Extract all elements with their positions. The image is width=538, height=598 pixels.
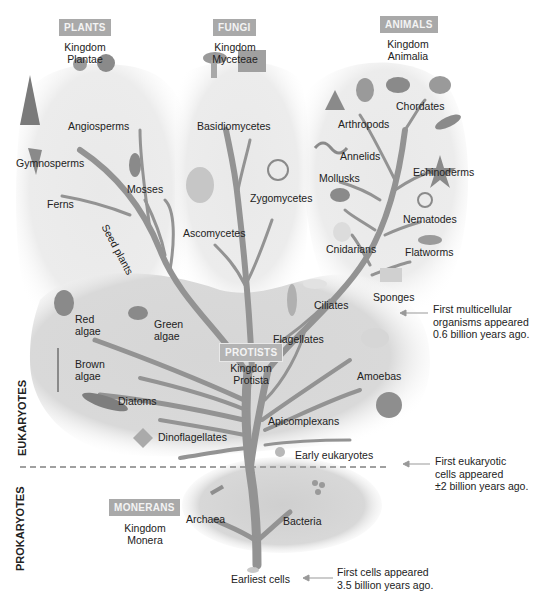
plants-kingdom-name: Kingdom Plantae (55, 41, 115, 65)
protists-kingdom-badge: PROTISTS (219, 343, 283, 362)
label-annelids: Annelids (340, 150, 380, 162)
label-earliest-cells: Earliest cells (231, 573, 290, 585)
fungi-kingdom-name: Kingdom Myceteae (204, 41, 266, 65)
label-gymnosperms: Gymnosperms (16, 157, 84, 169)
label-ascomycetes: Ascomycetes (183, 227, 245, 239)
eukaryotes-domain-label: EUKARYOTES (16, 376, 28, 456)
label-arthropods: Arthropods (338, 118, 389, 130)
monerans-kingdom-name: Kingdom Monera (115, 522, 175, 546)
sponge-icon (380, 268, 402, 282)
label-nematodes: Nematodes (403, 213, 457, 225)
prokaryotes-domain-label: PROKARYOTES (14, 491, 26, 571)
label-amoebas: Amoebas (357, 370, 401, 382)
label-mollusks: Mollusks (319, 172, 360, 184)
label-archaea: Archaea (186, 513, 225, 525)
tree-of-life-diagram: EUKARYOTES PROKARYOTES PLANTS Kingdom Pl… (0, 0, 538, 598)
label-basidiomycetes: Basidiomycetes (197, 120, 271, 132)
label-zygomycetes: Zygomycetes (250, 192, 312, 204)
monerans-kingdom-badge: MONERANS (109, 499, 180, 516)
label-chordates: Chordates (396, 100, 444, 112)
label-angiosperms: Angiosperms (68, 120, 129, 132)
mouse-icon (386, 77, 410, 93)
monerans-cloud (182, 457, 382, 553)
label-echinoderms: Echinoderms (413, 166, 474, 178)
animals-kingdom-name: Kingdom Animalia (378, 38, 438, 62)
plants-kingdom-badge: PLANTS (59, 19, 111, 36)
label-flatworms: Flatworms (405, 246, 453, 258)
red-algae-icon (54, 290, 74, 316)
ciliate-icon (303, 279, 327, 289)
flagellate-icon (287, 284, 297, 316)
label-early-eukaryotes: Early eukaryotes (295, 449, 373, 461)
snail-icon (330, 188, 350, 202)
moss-icon (129, 153, 141, 177)
label-mosses: Mosses (127, 183, 163, 195)
label-sponges: Sponges (373, 291, 414, 303)
jellyfish-icon (333, 222, 351, 242)
animals-kingdom-badge: ANIMALS (380, 16, 438, 33)
phylogenetic-tree-graphic (0, 0, 538, 598)
label-flagellates: Flagellates (273, 333, 324, 345)
fungi-kingdom-badge: FUNGI (213, 19, 256, 36)
bird-icon (356, 78, 374, 102)
bacteria-icon (312, 480, 318, 486)
label-apicomplexans: Apicomplexans (268, 415, 339, 427)
label-brown-algae: Brown algae (75, 358, 105, 382)
ascomycete-icon (186, 167, 214, 203)
apicomplexan-icon (376, 392, 402, 418)
protists-kingdom-name: Kingdom Protista (218, 362, 284, 386)
green-algae-icon (128, 306, 148, 320)
note-first-cells: First cells appeared 3.5 billion years a… (337, 566, 433, 591)
early-eukaryote-icon (275, 447, 285, 457)
note-first-eukaryotic: First eukaryotic cells appeared ±2 billi… (435, 455, 528, 493)
label-dinoflagellates: Dinoflagellates (158, 431, 227, 443)
label-red-algae: Red algae (75, 313, 101, 337)
label-bacteria: Bacteria (283, 515, 322, 527)
flatworm-icon (418, 235, 442, 245)
frog-icon (429, 76, 451, 94)
label-ferns: Ferns (47, 198, 74, 210)
label-cnidarians: Cnidarians (326, 243, 376, 255)
label-ciliates: Ciliates (314, 299, 348, 311)
note-first-multicellular: First multicellular organisms appeared 0… (433, 303, 529, 341)
label-diatoms: Diatoms (118, 395, 157, 407)
amoeba-icon (361, 328, 389, 348)
label-green-algae: Green algae (154, 318, 183, 342)
